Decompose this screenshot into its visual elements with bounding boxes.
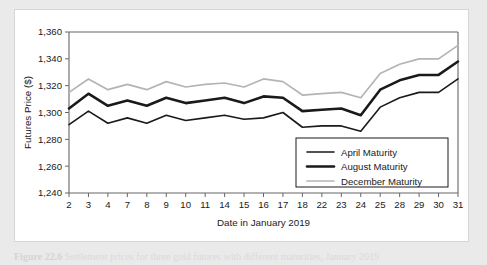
figure-container: 1,2401,2601,2801,3001,3201,3401,36023478…	[0, 0, 487, 265]
x-tick-label: 25	[375, 199, 386, 210]
x-tick-label: 15	[239, 199, 250, 210]
y-tick-label: 1,300	[38, 107, 62, 118]
legend-label-august-maturity: August Maturity	[341, 161, 408, 172]
legend-label-april-maturity: April Maturity	[341, 147, 397, 158]
x-tick-label: 10	[180, 199, 191, 210]
x-tick-label: 24	[355, 199, 366, 210]
x-tick-label: 18	[297, 199, 308, 210]
futures-price-line-chart: 1,2401,2601,2801,3001,3201,3401,36023478…	[15, 10, 470, 243]
y-tick-label: 1,320	[38, 80, 62, 91]
y-tick-label: 1,260	[38, 161, 62, 172]
figure-caption: Figure 22.6 Settlement prices for three …	[14, 248, 469, 265]
y-tick-label: 1,280	[38, 134, 62, 145]
chart-panel: 1,2401,2601,2801,3001,3201,3401,36023478…	[14, 9, 469, 242]
x-tick-label: 3	[86, 199, 91, 210]
y-tick-label: 1,240	[38, 187, 62, 198]
x-axis-title: Date in January 2019	[217, 217, 310, 228]
y-axis-title: Futures Price ($)	[22, 76, 33, 149]
caption-body: Settlement prices for three gold futures…	[65, 251, 379, 262]
x-tick-label: 17	[278, 199, 289, 210]
x-tick-label: 7	[125, 199, 130, 210]
series-line-december-maturity	[69, 45, 458, 97]
x-tick-label: 11	[200, 199, 210, 210]
x-tick-label: 28	[394, 199, 405, 210]
y-tick-label: 1,340	[38, 53, 62, 64]
x-tick-label: 14	[219, 199, 230, 210]
series-line-august-maturity	[69, 62, 458, 116]
legend-label-december-maturity: December Maturity	[341, 176, 422, 187]
y-tick-label: 1,360	[38, 26, 62, 37]
x-tick-label: 31	[453, 199, 464, 210]
x-tick-label: 22	[317, 199, 328, 210]
caption-figure-number: Figure 22.6	[14, 251, 62, 262]
x-tick-label: 8	[144, 199, 149, 210]
x-tick-label: 2	[66, 199, 71, 210]
x-tick-label: 4	[105, 199, 111, 210]
x-tick-label: 23	[336, 199, 347, 210]
series-line-april-maturity	[69, 79, 458, 131]
caption-text: Figure 22.6 Settlement prices for three …	[14, 248, 469, 265]
x-tick-label: 30	[433, 199, 444, 210]
x-tick-label: 16	[258, 199, 269, 210]
x-tick-label: 9	[164, 199, 169, 210]
x-tick-label: 29	[414, 199, 425, 210]
